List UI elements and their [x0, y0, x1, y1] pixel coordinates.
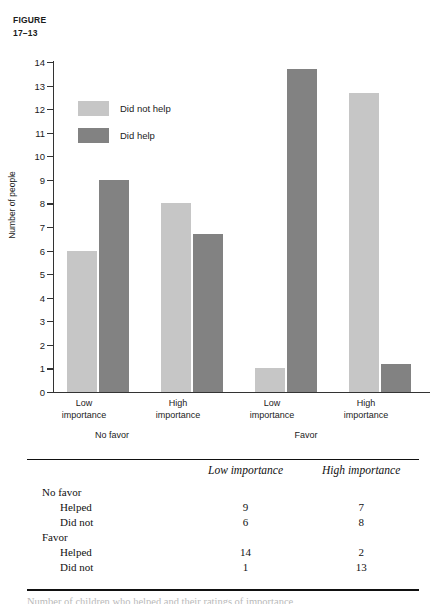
legend-label-did-help: Did help [120, 130, 155, 141]
table-row-favor: Favor [27, 529, 419, 544]
table-row-label: No favor [27, 484, 188, 499]
bar-no-favor-high-did-not[interactable] [161, 203, 191, 392]
x-tick-label-line1: High [327, 398, 405, 410]
table-row-label: Helped [27, 499, 188, 514]
table-row-label: Did not [27, 559, 188, 574]
x-tick-label-favor-low: Low importance [233, 398, 311, 421]
bar-no-favor-low-helped[interactable] [99, 180, 129, 392]
y-tick-label-5: 5 [5, 270, 45, 280]
legend-label-did-not-help: Did not help [120, 103, 171, 114]
table-cell-low [188, 484, 304, 499]
table-row-favor-did-not: Did not 1 13 [27, 559, 419, 574]
bar-favor-high-did-not[interactable] [349, 93, 379, 392]
table-cell-low: 6 [188, 514, 304, 529]
chart-legend: Did not help Did help [78, 98, 171, 152]
bar-no-favor-high-helped[interactable] [193, 234, 223, 392]
y-tick-label-4: 4 [5, 293, 45, 303]
table-bottom-rule [27, 589, 419, 591]
x-tick-label-favor-high: High importance [327, 398, 405, 421]
legend-item-did-help: Did help [78, 125, 171, 145]
table-body: No favor Helped 9 7 Did not 6 8 Favor He… [27, 480, 419, 574]
y-tick-label-11: 11 [5, 128, 45, 138]
y-tick-label-14: 14 [5, 58, 45, 68]
table-header-row: Low importance High importance [27, 460, 419, 481]
table-row-favor-helped: Helped 14 2 [27, 544, 419, 559]
y-tick-label-0: 0 [5, 388, 45, 398]
bar-favor-low-helped[interactable] [287, 69, 317, 392]
y-tick-label-2: 2 [5, 340, 45, 350]
bar-favor-low-did-not[interactable] [255, 368, 285, 392]
table-row-label: Helped [27, 544, 188, 559]
x-tick-label-line2: importance [327, 410, 405, 422]
table-cell-high [303, 529, 419, 544]
y-tick-label-12: 12 [5, 105, 45, 115]
y-tick-label-13: 13 [5, 81, 45, 91]
summary-table: Low importance High importance No favor … [27, 459, 419, 574]
table-row-label: Did not [27, 514, 188, 529]
table-cell-high: 8 [303, 514, 419, 529]
table-row-no-favor-helped: Helped 9 7 [27, 499, 419, 514]
y-axis-title: Number of people [7, 145, 17, 265]
table-cell-high: 13 [303, 559, 419, 574]
x-tick-label-no-favor-low: Low importance [45, 398, 123, 421]
dark-gray-swatch-icon [78, 128, 109, 143]
table-row-label: Favor [27, 529, 188, 544]
bar-favor-high-helped[interactable] [381, 364, 411, 392]
table-cell-high: 7 [303, 499, 419, 514]
table-header-high-importance: High importance [303, 460, 419, 481]
light-gray-swatch-icon [78, 101, 109, 116]
table-cell-high: 2 [303, 544, 419, 559]
table-cell-low: 1 [188, 559, 304, 574]
table-cell-high [303, 484, 419, 499]
table-cell-low [188, 529, 304, 544]
table-row-no-favor-did-not: Did not 6 8 [27, 514, 419, 529]
clipped-caption-text: Number of children who helped and their … [27, 596, 419, 604]
table-cell-low: 14 [188, 544, 304, 559]
y-tick-label-1: 1 [5, 364, 45, 374]
x-tick-label-line1: Low [45, 398, 123, 410]
x-tick-label-line1: High [139, 398, 217, 410]
table-row-no-favor: No favor [27, 484, 419, 499]
table-cell-low: 9 [188, 499, 304, 514]
x-tick-label-line1: Low [233, 398, 311, 410]
bar-no-favor-low-did-not[interactable] [67, 251, 97, 392]
x-group-label-favor: Favor [246, 430, 366, 441]
x-tick-label-line2: importance [45, 410, 123, 422]
x-tick-label-line2: importance [233, 410, 311, 422]
x-tick-label-line2: importance [139, 410, 217, 422]
table-header-corner [27, 460, 188, 481]
legend-item-did-not-help: Did not help [78, 98, 171, 118]
table-header-low-importance: Low importance [188, 460, 304, 481]
x-tick-label-no-favor-high: High importance [139, 398, 217, 421]
bar-chart: 14 13 12 11 10 9 8 7 6 5 4 3 2 1 0 Numbe… [0, 0, 436, 455]
y-tick-label-3: 3 [5, 317, 45, 327]
x-group-label-no-favor: No favor [52, 430, 172, 441]
